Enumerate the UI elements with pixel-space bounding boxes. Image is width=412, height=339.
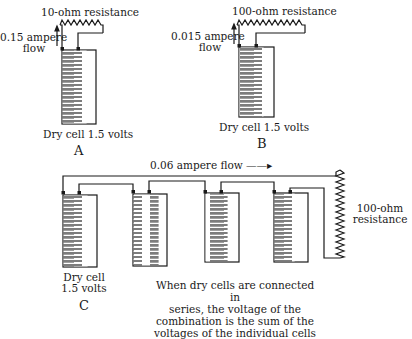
panel-a-resistance-label: 10-ohm resistance	[41, 6, 139, 18]
panel-b-cell-label: Dry cell 1.5 volts	[219, 121, 309, 133]
panel-c-letter: C	[79, 298, 89, 313]
resistor-icon	[237, 20, 305, 33]
dry-cell-c1	[64, 196, 88, 267]
caption-line: combination is the sum of the	[150, 315, 320, 327]
panel-c-circuit	[63, 170, 344, 267]
dry-cell-b	[240, 48, 264, 117]
dry-cell-a	[63, 51, 87, 124]
dry-cell-c3	[206, 194, 228, 262]
panel-c-flow-label: 0.06 ampere flow ——▸	[150, 159, 272, 171]
panel-c-cell-line2: 1.5 volts	[56, 282, 112, 294]
panel-b-current-line2: flow	[190, 41, 230, 53]
panel-b-resistance-label: 100-ohm resistance	[232, 5, 337, 17]
panel-c-resistance-line2: resistance	[352, 213, 408, 225]
caption-line: When dry cells are connected in	[150, 279, 320, 303]
caption-line: series, the voltage of the	[150, 303, 320, 315]
dry-cell-c4	[275, 194, 295, 262]
dry-cell-c2	[134, 195, 159, 266]
terminal-dots	[62, 190, 293, 195]
panel-a-cell-label: Dry cell 1.5 volts	[43, 128, 133, 140]
resistor-icon	[336, 170, 344, 258]
panel-a-current-line2: flow	[14, 42, 54, 54]
panel-a-letter: A	[74, 143, 83, 158]
panel-c-caption: When dry cells are connected in series, …	[150, 279, 320, 339]
panel-b-letter: B	[257, 136, 267, 151]
caption-line: voltages of the individual cells	[150, 327, 320, 339]
